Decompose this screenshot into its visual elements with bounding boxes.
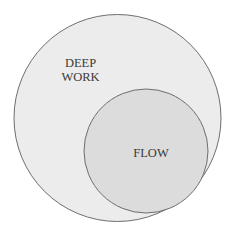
deep-work-label-line2: WORK [61,70,99,84]
deep-work-label-line1: DEEP [65,56,96,70]
venn-diagram: DEEP WORK FLOW [0,0,234,240]
flow-label: FLOW [133,146,169,160]
